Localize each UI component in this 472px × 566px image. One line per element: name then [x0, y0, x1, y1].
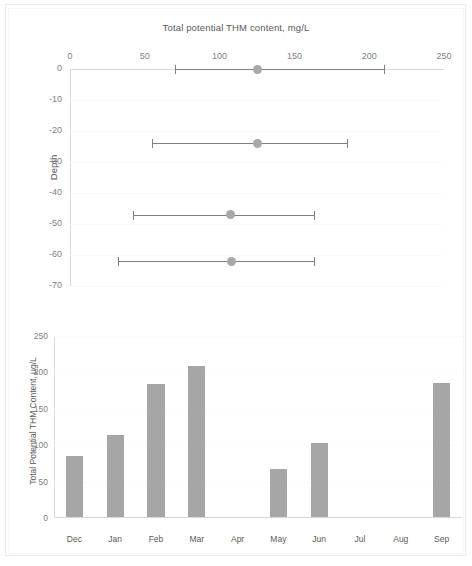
- y-tick-label: 200: [14, 367, 48, 377]
- gridline: [70, 255, 444, 256]
- chart-top-plot-area: 0 50 100 150 200 250 0 -10 -20 -30 -40 -…: [70, 69, 444, 286]
- gridline: [70, 224, 444, 225]
- x-tick-label-mar: Mar: [176, 534, 217, 544]
- gridline: [70, 162, 444, 163]
- y-tick-label: -30: [22, 156, 62, 166]
- y-tick-label: 0: [14, 513, 48, 523]
- bar-mar[interactable]: [188, 366, 205, 517]
- error-bar-cap-low: [152, 139, 153, 148]
- x-tick-label-feb: Feb: [136, 534, 177, 544]
- x-tick-label: 100: [200, 51, 240, 61]
- x-tick-label-jun: Jun: [299, 534, 340, 544]
- chart-monthly-thm-bars: Total Potential THM Content, µg/L 0 50 1…: [0, 326, 472, 552]
- x-tick-label: 50: [125, 51, 165, 61]
- gridline: [54, 372, 462, 373]
- bar-may[interactable]: [270, 469, 287, 517]
- y-tick-label: 0: [22, 63, 62, 73]
- y-tick-label: 100: [14, 440, 48, 450]
- chart-bottom-plot-area: 0 50 100 150 200 250 DecJanFebMarAprMayJ…: [54, 336, 462, 518]
- bar-jun[interactable]: [311, 443, 328, 517]
- x-tick-label: 200: [349, 51, 389, 61]
- gridline: [70, 286, 444, 287]
- data-point-marker[interactable]: [253, 139, 262, 148]
- bar-feb[interactable]: [147, 384, 164, 517]
- x-tick-label-jan: Jan: [95, 534, 136, 544]
- y-tick-label: -70: [22, 280, 62, 290]
- figure-page: Total potential THM content, mg/L Depth …: [0, 0, 472, 566]
- x-tick-label: 0: [50, 51, 90, 61]
- x-tick-label-apr: Apr: [217, 534, 258, 544]
- y-tick-label: -40: [22, 187, 62, 197]
- error-bar-cap-low: [133, 211, 134, 220]
- chart-bottom-y-axis-line: [54, 336, 55, 518]
- x-tick-label: 150: [274, 51, 314, 61]
- gridline: [70, 100, 444, 101]
- gridline: [70, 193, 444, 194]
- y-tick-label: -50: [22, 218, 62, 228]
- bar-sep[interactable]: [433, 383, 450, 517]
- chart-top-title: Total potential THM content, mg/L: [0, 22, 472, 33]
- gridline: [54, 409, 462, 410]
- error-bar-cap-high: [314, 211, 315, 220]
- error-bar-cap-high: [314, 257, 315, 266]
- error-bar-line: [133, 215, 314, 216]
- error-bar-line: [175, 69, 384, 70]
- bar-dec[interactable]: [66, 456, 83, 517]
- error-bar-cap-high: [347, 139, 348, 148]
- chart-top-y-axis-line: [70, 69, 71, 286]
- y-tick-label: -60: [22, 249, 62, 259]
- x-tick-label-aug: Aug: [380, 534, 421, 544]
- error-bar-line: [152, 143, 346, 144]
- x-tick-label-dec: Dec: [54, 534, 95, 544]
- x-tick-label-sep: Sep: [421, 534, 462, 544]
- y-tick-label: 150: [14, 404, 48, 414]
- data-point-marker[interactable]: [253, 65, 262, 74]
- gridline: [54, 336, 462, 337]
- x-tick-label-jul: Jul: [340, 534, 381, 544]
- y-tick-label: 50: [14, 477, 48, 487]
- x-tick-label-may: May: [258, 534, 299, 544]
- data-point-marker[interactable]: [227, 257, 236, 266]
- error-bar-cap-high: [384, 65, 385, 74]
- data-point-marker[interactable]: [226, 210, 235, 219]
- error-bar-cap-low: [175, 65, 176, 74]
- x-tick-label: 250: [424, 51, 464, 61]
- y-tick-label: -10: [22, 94, 62, 104]
- gridline: [70, 131, 444, 132]
- chart-bottom-x-axis-line: [54, 517, 462, 518]
- bar-jan[interactable]: [107, 435, 124, 517]
- error-bar-line: [118, 261, 314, 262]
- error-bar-cap-low: [118, 257, 119, 266]
- y-tick-label: -20: [22, 125, 62, 135]
- chart-depth-thm-errorbars: Total potential THM content, mg/L Depth …: [0, 14, 472, 314]
- y-tick-label: 250: [14, 331, 48, 341]
